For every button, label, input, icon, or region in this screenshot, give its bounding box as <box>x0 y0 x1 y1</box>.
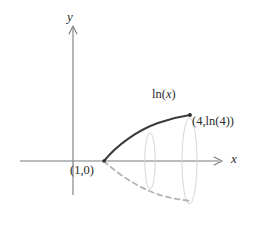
x-axis-label: x <box>231 152 237 165</box>
curve-label-ln-x: ln(x) <box>152 88 176 101</box>
reflected-dashed-curve <box>104 161 190 201</box>
endpoint-coordinate-label: (4,ln(4)) <box>192 115 234 128</box>
curve-label-suffix: ) <box>171 87 175 101</box>
start-point-coordinate-label: (1,0) <box>70 164 94 177</box>
curve-label-prefix: ln( <box>152 87 166 101</box>
start-point-dot <box>102 159 105 162</box>
log-curve-revolution-figure: y x ln(x) (4,ln(4)) (1,0) <box>0 0 256 230</box>
y-axis-label: y <box>67 10 73 23</box>
